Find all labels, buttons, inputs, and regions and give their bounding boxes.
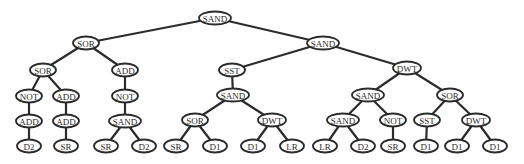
- node-label: ADD: [56, 117, 76, 127]
- node-label: SST: [224, 66, 240, 76]
- node-label: ADD: [56, 92, 76, 102]
- tree-node-d1: D1: [241, 140, 265, 153]
- tree-node-d2: D2: [132, 140, 156, 153]
- tree-node-d2: D2: [351, 140, 375, 153]
- tree-node-sand: SAND: [307, 37, 339, 50]
- tree-node-dwt: DWT: [393, 62, 421, 75]
- node-label: SR: [60, 142, 71, 152]
- node-label: SAND: [356, 91, 381, 101]
- node-label: ADD: [19, 117, 39, 127]
- tree-node-sr: SR: [94, 140, 118, 153]
- node-label: SOR: [34, 66, 52, 76]
- tree-node-sor: SOR: [437, 89, 463, 102]
- tree-node-add: ADD: [53, 115, 79, 128]
- expression-tree-diagram: SANDSORSANDSORADDSSTDWTNOTADDNOTSANDSAND…: [0, 0, 524, 164]
- tree-node-add: ADD: [16, 115, 42, 128]
- node-label: SST: [419, 116, 435, 126]
- tree-node-sand: SAND: [109, 115, 141, 128]
- node-label: D2: [358, 142, 369, 152]
- node-label: SAND: [331, 116, 356, 126]
- node-label: SR: [100, 142, 111, 152]
- node-label: SAND: [113, 117, 138, 127]
- node-label: NOT: [20, 92, 39, 102]
- node-label: SAND: [311, 39, 336, 49]
- tree-node-d1: D1: [203, 140, 227, 153]
- tree-node-d1: D1: [445, 140, 469, 153]
- tree-node-add: ADD: [112, 64, 138, 77]
- tree-node-sr: SR: [381, 140, 405, 153]
- node-label: NOT: [384, 116, 403, 126]
- node-label: ADD: [115, 66, 135, 76]
- tree-edge: [215, 18, 323, 43]
- node-label: D2: [139, 142, 150, 152]
- node-label: SR: [170, 142, 181, 152]
- tree-node-lr: LR: [313, 140, 337, 153]
- node-label: SOR: [441, 91, 459, 101]
- tree-node-sand: SAND: [217, 89, 249, 102]
- tree-node-d1: D1: [483, 140, 507, 153]
- node-label: SAND: [221, 91, 246, 101]
- node-label: SR: [387, 142, 398, 152]
- node-label: D1: [248, 142, 259, 152]
- tree-nodes: SANDSORSANDSORADDSSTDWTNOTADDNOTSANDSAND…: [16, 12, 507, 153]
- tree-edge: [86, 18, 215, 43]
- tree-node-not: NOT: [380, 114, 406, 127]
- node-label: SOR: [77, 39, 95, 49]
- node-label: SOR: [186, 116, 204, 126]
- tree-node-dwt: DWT: [462, 114, 490, 127]
- tree-node-not: NOT: [112, 90, 138, 103]
- tree-node-sor: SOR: [182, 114, 208, 127]
- node-label: D1: [210, 142, 221, 152]
- tree-node-sand: SAND: [352, 89, 384, 102]
- node-label: D1: [421, 142, 432, 152]
- node-label: LR: [319, 142, 331, 152]
- tree-node-sand: SAND: [199, 12, 231, 25]
- tree-node-sr: SR: [54, 140, 78, 153]
- tree-node-sor: SOR: [73, 37, 99, 50]
- node-label: D1: [490, 142, 501, 152]
- node-label: NOT: [116, 92, 135, 102]
- node-label: DWT: [466, 116, 487, 126]
- tree-node-sor: SOR: [30, 64, 56, 77]
- tree-node-sst: SST: [414, 114, 440, 127]
- node-label: LR: [286, 142, 298, 152]
- node-label: SAND: [203, 14, 228, 24]
- node-label: D2: [24, 142, 35, 152]
- tree-node-dwt: DWT: [258, 114, 286, 127]
- tree-node-not: NOT: [16, 90, 42, 103]
- tree-node-sr: SR: [164, 140, 188, 153]
- tree-node-add: ADD: [53, 90, 79, 103]
- node-label: D1: [452, 142, 463, 152]
- tree-node-lr: LR: [280, 140, 304, 153]
- tree-node-sst: SST: [219, 64, 245, 77]
- tree-node-sand: SAND: [327, 114, 359, 127]
- tree-node-d2: D2: [17, 140, 41, 153]
- tree-node-d1: D1: [414, 140, 438, 153]
- node-label: DWT: [397, 64, 418, 74]
- node-label: DWT: [262, 116, 283, 126]
